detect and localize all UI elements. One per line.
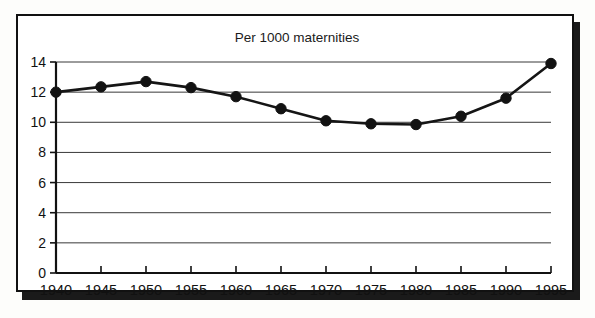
data-point-marker (546, 58, 556, 68)
data-point-marker (276, 104, 286, 114)
x-tick-label: 1980 (400, 282, 432, 298)
data-point-marker (456, 111, 466, 121)
chart-title: Per 1000 maternities (235, 30, 360, 45)
data-point-marker (96, 82, 106, 92)
x-tick-label: 1965 (265, 282, 297, 298)
y-tick-label: 10 (30, 114, 46, 130)
x-tick-label: 1955 (175, 282, 207, 298)
data-point-marker (366, 119, 376, 129)
data-point-marker (141, 76, 151, 86)
x-tick-label: 1990 (490, 282, 522, 298)
x-tick-label: 1975 (355, 282, 387, 298)
x-tick-label: 1945 (85, 282, 117, 298)
y-tick-label: 6 (38, 175, 46, 191)
data-point-markers (51, 58, 556, 129)
gridlines-group (56, 62, 551, 243)
data-point-marker (411, 119, 421, 129)
x-tick-label: 1950 (130, 282, 162, 298)
data-series-line (56, 64, 551, 125)
x-tick-label: 1940 (40, 282, 72, 298)
y-tick-label: 12 (30, 84, 46, 100)
data-point-marker (501, 93, 511, 103)
x-tick-label: 1970 (310, 282, 342, 298)
data-point-marker (231, 91, 241, 101)
data-point-marker (51, 87, 61, 97)
x-tick-label: 1960 (220, 282, 252, 298)
chart-figure: Per 1000 maternities 02468101214 1940194… (0, 0, 595, 318)
y-axis-tick-labels: 02468101214 (30, 54, 46, 281)
y-tick-label: 2 (38, 235, 46, 251)
y-tick-label: 0 (38, 265, 46, 281)
x-tick-label: 1985 (445, 282, 477, 298)
line-chart-plot: Per 1000 maternities 02468101214 1940194… (0, 0, 595, 318)
x-axis-tick-labels: 1940194519501955196019651970197519801985… (40, 282, 567, 298)
data-point-marker (186, 82, 196, 92)
y-tick-label: 14 (30, 54, 46, 70)
y-tick-label: 8 (38, 144, 46, 160)
y-tick-label: 4 (38, 205, 46, 221)
x-tick-label: 1995 (535, 282, 567, 298)
data-point-marker (321, 116, 331, 126)
